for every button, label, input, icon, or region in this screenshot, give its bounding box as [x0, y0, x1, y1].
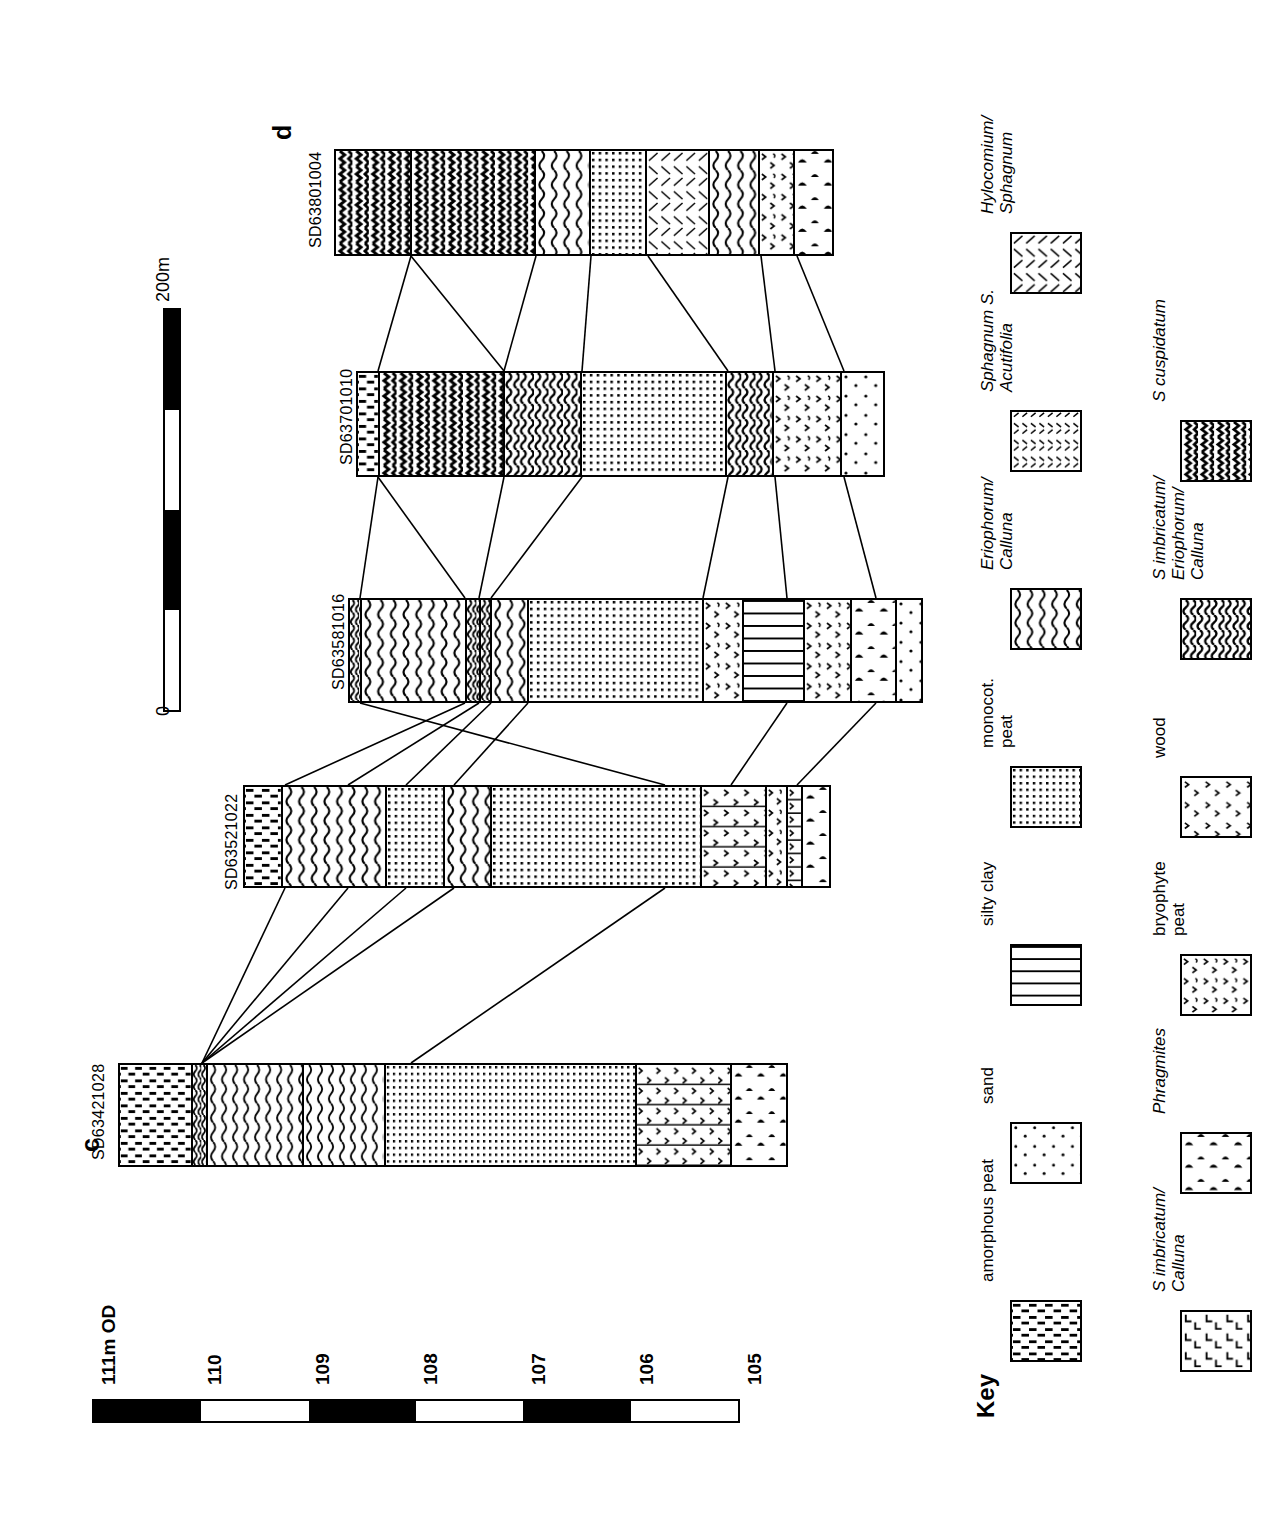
core-layer [637, 1065, 732, 1165]
core-log-SD63521022[interactable] [243, 785, 831, 888]
key-swatch [1010, 944, 1082, 1006]
scale-segment [201, 1401, 308, 1421]
correlation-line [202, 888, 348, 1063]
key-swatch [1180, 776, 1252, 838]
key-swatch [1010, 588, 1082, 650]
correlation-line [202, 888, 454, 1063]
core-layer [445, 787, 493, 886]
distance-scale-end: 200m [153, 257, 174, 302]
core-log-SD63801004[interactable] [334, 149, 834, 256]
core-layer [467, 600, 481, 701]
correlation-line [797, 256, 844, 371]
key-swatch [1010, 410, 1082, 472]
key-label: Hylocomium/Sphagnum [978, 116, 1016, 214]
core-layer [505, 373, 582, 475]
core-layer [380, 373, 505, 475]
correlation-line [797, 703, 876, 785]
key-title: Key [972, 1374, 1000, 1418]
core-layer [702, 787, 768, 886]
scale-segment [165, 410, 179, 510]
correlation-line [582, 256, 591, 371]
core-layer [788, 787, 803, 886]
core-layer [387, 787, 445, 886]
core-layer [386, 1065, 638, 1165]
key-swatch [1010, 1300, 1082, 1362]
elevation-unit-label: 111m OD [98, 1305, 120, 1385]
correlation-line [504, 256, 536, 371]
correlation-line [360, 477, 378, 598]
core-layer [897, 600, 921, 701]
core-layer [704, 600, 744, 701]
core-layer [193, 1065, 209, 1165]
core-layer [582, 373, 727, 475]
elevation-scale-bar [92, 1399, 740, 1423]
correlation-line [378, 477, 465, 598]
scale-segment [309, 1401, 416, 1421]
core-layer [412, 151, 536, 254]
elevation-tick: 108 [420, 1353, 442, 1385]
core-layer [481, 600, 493, 701]
scale-segment [165, 610, 179, 710]
key-label: sand [978, 1067, 997, 1104]
core-layer [710, 151, 760, 254]
key-label: amorphous peat [978, 1159, 997, 1282]
panel-label: c [76, 1138, 105, 1152]
key-swatch [1010, 232, 1082, 294]
key-label: Phragmites [1150, 1028, 1169, 1114]
core-layer [362, 600, 467, 701]
key-label: monocot.peat [978, 678, 1016, 748]
core-layer [350, 600, 362, 701]
core-log-SD63421028[interactable] [118, 1063, 788, 1167]
core-layer [536, 151, 591, 254]
core-layer [803, 787, 829, 886]
correlation-line [285, 703, 465, 785]
correlation-line [202, 888, 285, 1063]
correlation-line [844, 477, 876, 598]
key-label: S imbricatum/Eriophorum/Calluna [1150, 476, 1207, 580]
scale-segment [523, 1401, 630, 1421]
correlation-line [479, 477, 504, 598]
scale-segment [94, 1401, 201, 1421]
panel-label: d [268, 125, 297, 140]
core-layer [774, 373, 842, 475]
key-label: bryophytepeat [1150, 861, 1188, 936]
elevation-tick: 106 [636, 1353, 658, 1385]
distance-scale-start: 0 [153, 706, 174, 716]
core-log-SD63701010[interactable] [356, 371, 885, 477]
correlation-line [406, 703, 491, 785]
core-layer [283, 787, 387, 886]
core-layer [529, 600, 703, 701]
correlation-line [731, 703, 787, 785]
correlation-line [378, 256, 411, 371]
elevation-tick: 110 [204, 1354, 226, 1385]
key-swatch [1010, 766, 1082, 828]
correlation-line [348, 703, 479, 785]
core-layer [852, 600, 897, 701]
correlation-line [411, 256, 504, 371]
core-layer [744, 600, 806, 701]
correlation-line [703, 477, 728, 598]
correlation-line [491, 477, 582, 598]
core-log-SD63581016[interactable] [348, 598, 923, 703]
core-layer [358, 373, 380, 475]
core-layer [767, 787, 788, 886]
core-layer [647, 151, 709, 254]
correlation-line [360, 703, 665, 785]
key-label: S cuspidatum [1150, 299, 1169, 402]
core-layer [591, 151, 648, 254]
correlation-line [202, 888, 406, 1063]
distance-scale-bar [163, 308, 181, 712]
scale-segment [631, 1401, 738, 1421]
core-label-SD63521022: SD63521022 [223, 794, 241, 890]
core-label-SD63801004: SD63801004 [307, 152, 325, 248]
core-layer [245, 787, 283, 886]
key-swatch [1010, 1122, 1082, 1184]
correlation-line [648, 256, 728, 371]
core-label-SD63581016: SD63581016 [330, 594, 348, 690]
core-layer [336, 151, 412, 254]
elevation-tick: 105 [744, 1353, 766, 1385]
key-label: Eriophorum/Calluna [978, 477, 1016, 570]
core-layer [492, 787, 702, 886]
correlation-line [775, 477, 787, 598]
scale-segment [165, 510, 179, 610]
